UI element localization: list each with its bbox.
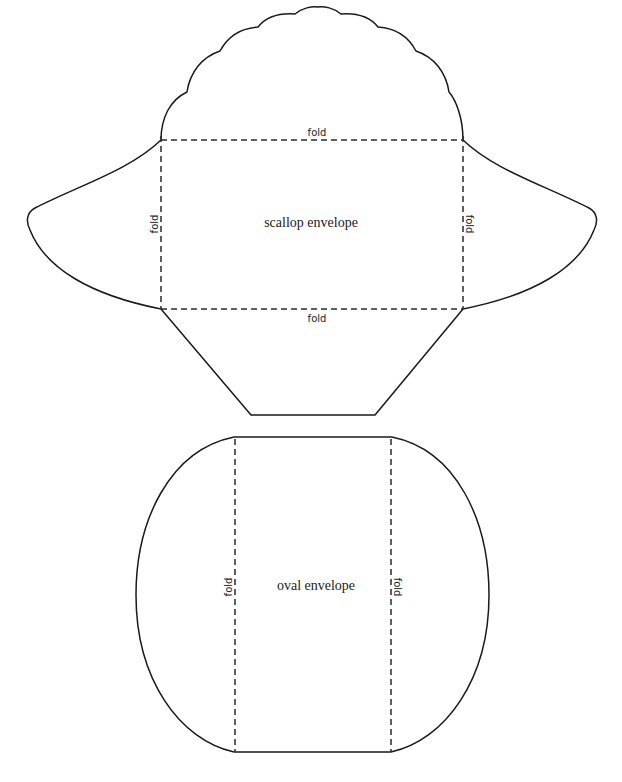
scallop-left-flap-outline	[27, 140, 161, 309]
scallop-right-flap-outline	[463, 140, 597, 309]
scallop-top-flap-outline	[161, 7, 463, 140]
scallop-fold-label-top: fold	[308, 127, 327, 138]
scallop-fold-label-right: fold	[464, 215, 475, 234]
envelope-template-diagram: fold fold fold fold scallop envelope fol…	[0, 0, 622, 782]
scallop-bottom-flap-outline	[161, 309, 463, 415]
oval-envelope: fold fold oval envelope	[136, 437, 489, 752]
scallop-envelope: fold fold fold fold scallop envelope	[27, 7, 596, 415]
oval-envelope-title: oval envelope	[277, 578, 355, 593]
scallop-fold-label-left: fold	[149, 215, 160, 234]
oval-fold-label-left: fold	[223, 578, 234, 597]
oval-fold-label-right: fold	[392, 578, 403, 597]
oval-right-flap-outline	[391, 437, 489, 752]
oval-left-flap-outline	[136, 437, 234, 752]
scallop-envelope-title: scallop envelope	[264, 215, 358, 230]
scallop-fold-label-bottom: fold	[308, 313, 327, 324]
